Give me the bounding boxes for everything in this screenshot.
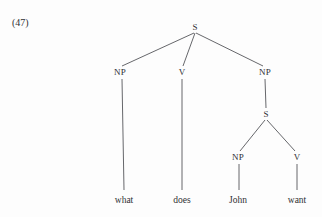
tree-leaf-leaf-does: does (173, 196, 190, 206)
tree-node-NP-3: NP (232, 153, 244, 162)
tree-leaf-leaf-want: want (288, 196, 306, 206)
tree-node-NP-1: NP (114, 68, 126, 77)
syntax-tree-figure: (47) SNPVNPSNPVwhatdoesJohnwant (0, 0, 322, 217)
tree-edge-NP-2-to-S-emb (265, 79, 266, 108)
tree-leaf-leaf-john: John (229, 196, 247, 206)
tree-leaf-leaf-what: what (115, 196, 133, 206)
tree-edge-S-root-to-NP-2 (196, 33, 263, 66)
tree-edge-S-root-to-NP-1 (122, 33, 194, 66)
tree-node-NP-2: NP (259, 68, 271, 77)
tree-edges-svg (0, 0, 322, 217)
tree-edge-NP-1-to-leaf-what (122, 79, 124, 190)
tree-node-V-2: V (294, 153, 301, 162)
tree-edge-S-emb-to-V-2 (267, 120, 295, 151)
tree-node-S-root: S (192, 23, 197, 32)
tree-node-V-1: V (179, 68, 186, 77)
tree-edge-S-emb-to-NP-3 (240, 120, 265, 151)
tree-node-S-emb: S (263, 110, 268, 119)
tree-edge-S-root-to-V-1 (183, 33, 195, 66)
